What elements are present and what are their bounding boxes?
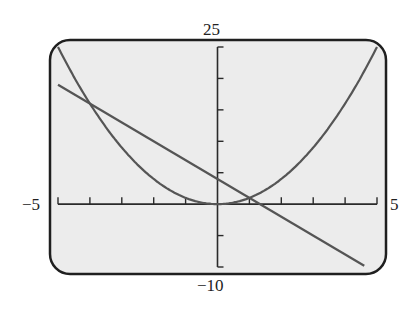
- ymax-label: 25: [203, 21, 220, 38]
- xmin-label: −5: [22, 196, 40, 213]
- plot-area: [0, 0, 414, 314]
- xmax-label: 5: [390, 196, 399, 213]
- ymin-label: −10: [197, 277, 224, 294]
